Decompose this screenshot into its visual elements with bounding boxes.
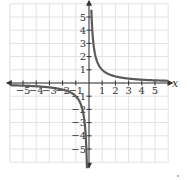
x-axis-label: x xyxy=(172,77,179,90)
x-tick-label: 3 xyxy=(125,85,131,96)
y-tick-label: 1 xyxy=(80,64,86,75)
x-tick-label: 2 xyxy=(112,85,118,96)
y-tick-label: −5 xyxy=(71,144,86,155)
x-tick-label: 5 xyxy=(152,85,158,96)
stray-dot xyxy=(177,175,179,177)
x-tick-label: 1 xyxy=(99,85,105,96)
y-tick-label: 5 xyxy=(80,12,86,23)
y-tick-label: 2 xyxy=(80,51,86,62)
x-tick-label: 4 xyxy=(139,85,145,96)
graph-1-over-x: −5−4−3−2−11234554321−1−2−3−4−5 x xyxy=(0,0,190,180)
y-tick-label: 3 xyxy=(80,38,86,49)
y-tick-label: 4 xyxy=(80,25,86,36)
y-tick-label: −4 xyxy=(71,130,86,141)
